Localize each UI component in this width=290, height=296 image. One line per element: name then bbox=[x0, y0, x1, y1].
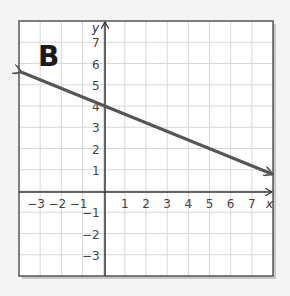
y-axis-label: y bbox=[91, 21, 100, 35]
y-tick-label: −3 bbox=[82, 249, 100, 263]
x-tick-label: −2 bbox=[48, 197, 66, 211]
y-tick-label: 2 bbox=[92, 143, 100, 157]
y-tick-label: 3 bbox=[92, 121, 100, 135]
x-tick-label: 7 bbox=[248, 197, 256, 211]
x-tick-label: 2 bbox=[142, 197, 150, 211]
x-tick-label: 5 bbox=[206, 197, 214, 211]
y-tick-label: 1 bbox=[92, 164, 100, 178]
x-tick-label: −3 bbox=[27, 197, 45, 211]
panel-label: B bbox=[38, 40, 59, 73]
y-tick-label: 6 bbox=[92, 58, 100, 72]
y-tick-label: 7 bbox=[92, 36, 100, 50]
x-tick-label: 6 bbox=[227, 197, 235, 211]
x-tick-label: 4 bbox=[185, 197, 193, 211]
coordinate-plane: −3−2−112345677654321−1−2−3 x y B bbox=[0, 0, 290, 296]
x-axis-label: x bbox=[265, 197, 274, 211]
x-tick-label: 3 bbox=[163, 197, 171, 211]
y-tick-label: −1 bbox=[82, 206, 100, 220]
y-tick-label: 5 bbox=[92, 79, 100, 93]
y-tick-label: −2 bbox=[82, 228, 100, 242]
x-tick-label: 1 bbox=[121, 197, 129, 211]
